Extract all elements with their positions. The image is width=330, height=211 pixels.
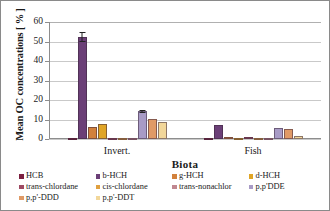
legend-label: HCB xyxy=(26,172,43,181)
bar-fill xyxy=(148,119,157,139)
bar xyxy=(158,122,167,139)
y-tick-label: 30 xyxy=(34,76,44,86)
legend-label: p,p'DDE xyxy=(256,183,285,192)
y-axis-title: Mean OC concentrations [ % ] xyxy=(14,5,25,145)
legend-swatch-icon xyxy=(172,185,177,190)
bar-fill xyxy=(244,137,253,139)
legend-label: p,p'-DDD xyxy=(26,194,59,203)
legend-swatch-icon xyxy=(249,185,254,190)
bar-fill xyxy=(264,138,273,140)
bar xyxy=(244,137,253,139)
chart-legend: HCBb-HCHg-HCHd-HCHtrans-chlordanecis-chl… xyxy=(19,172,325,202)
legend-label: trans-chlordane xyxy=(26,183,78,192)
bar-fill xyxy=(158,122,167,139)
bar xyxy=(128,138,137,139)
legend-item[interactable]: trans-chlordane xyxy=(19,183,96,192)
bar xyxy=(254,138,263,139)
legend-item[interactable]: b-HCH xyxy=(96,172,173,181)
y-tick-label: 40 xyxy=(34,56,44,66)
bar-fill xyxy=(78,37,87,139)
bar xyxy=(68,138,77,139)
bar-fill xyxy=(108,138,117,140)
bar-fill xyxy=(254,138,263,140)
bar-fill xyxy=(98,124,107,139)
legend-label: trans-nonachlor xyxy=(179,183,232,192)
legend-item[interactable]: trans-nonachlor xyxy=(172,183,249,192)
bar xyxy=(264,138,273,139)
legend-label: cis-chlordane xyxy=(103,183,148,192)
legend-swatch-icon xyxy=(96,174,101,179)
legend-swatch-icon xyxy=(19,196,24,201)
bar xyxy=(138,111,147,139)
bar-groups: Invert.Fish xyxy=(49,22,321,139)
chart-figure: Mean OC concentrations [ % ] 01020304050… xyxy=(0,0,330,211)
x-axis-title: Biota xyxy=(49,158,321,170)
plot-area: 0102030405060 Invert.Fish xyxy=(49,22,321,139)
y-tick-label: 10 xyxy=(34,115,44,125)
bar-fill xyxy=(204,138,213,140)
bar-fill xyxy=(284,129,293,139)
error-bar xyxy=(82,32,83,42)
bar xyxy=(284,129,293,139)
legend-item[interactable]: HCB xyxy=(19,172,96,181)
bar-fill xyxy=(68,138,77,140)
y-tick-label: 20 xyxy=(34,95,44,105)
bar-fill xyxy=(128,138,137,140)
bar-fill xyxy=(214,125,223,139)
legend-item[interactable]: d-HCH xyxy=(249,172,326,181)
legend-label: d-HCH xyxy=(256,172,281,181)
bar-fill xyxy=(294,136,303,139)
y-tick-label: 60 xyxy=(34,17,44,27)
bar-fill xyxy=(224,137,233,139)
bar xyxy=(108,138,117,139)
legend-swatch-icon xyxy=(19,174,24,179)
legend-swatch-icon xyxy=(96,196,101,201)
bar-group: Invert. xyxy=(49,22,185,139)
legend-item[interactable]: p,p'-DDD xyxy=(19,194,96,203)
legend-item[interactable]: cis-chlordane xyxy=(96,183,173,192)
bar xyxy=(214,125,223,139)
gridline xyxy=(49,139,321,140)
bar xyxy=(98,124,107,139)
bar-fill xyxy=(88,127,97,139)
bar xyxy=(88,127,97,139)
bar xyxy=(78,37,87,139)
legend-label: p,p'-DDT xyxy=(103,194,135,203)
legend-swatch-icon xyxy=(249,174,254,179)
legend-item[interactable]: p,p'DDE xyxy=(249,183,326,192)
legend-swatch-icon xyxy=(172,174,177,179)
legend-label: b-HCH xyxy=(103,172,128,181)
bar-fill xyxy=(118,138,127,140)
legend-swatch-icon xyxy=(96,185,101,190)
x-tick-label: Invert. xyxy=(104,145,130,156)
bar xyxy=(274,128,283,139)
y-tick-label: 50 xyxy=(34,37,44,47)
legend-label: g-HCH xyxy=(179,172,204,181)
bar xyxy=(148,119,157,139)
bar-fill xyxy=(234,138,243,140)
bar xyxy=(204,138,213,139)
error-bar xyxy=(142,110,143,113)
y-tick-label: 0 xyxy=(38,134,43,144)
bar xyxy=(224,137,233,139)
y-tick-mark xyxy=(45,139,49,140)
bar-fill xyxy=(138,111,147,139)
legend-item[interactable]: p,p'-DDT xyxy=(96,194,173,203)
bar-group: Fish xyxy=(185,22,321,139)
bar xyxy=(118,138,127,139)
legend-swatch-icon xyxy=(19,185,24,190)
bar-fill xyxy=(274,128,283,139)
bar xyxy=(294,136,303,139)
bar xyxy=(234,138,243,139)
x-tick-label: Fish xyxy=(244,145,261,156)
legend-item[interactable]: g-HCH xyxy=(172,172,249,181)
